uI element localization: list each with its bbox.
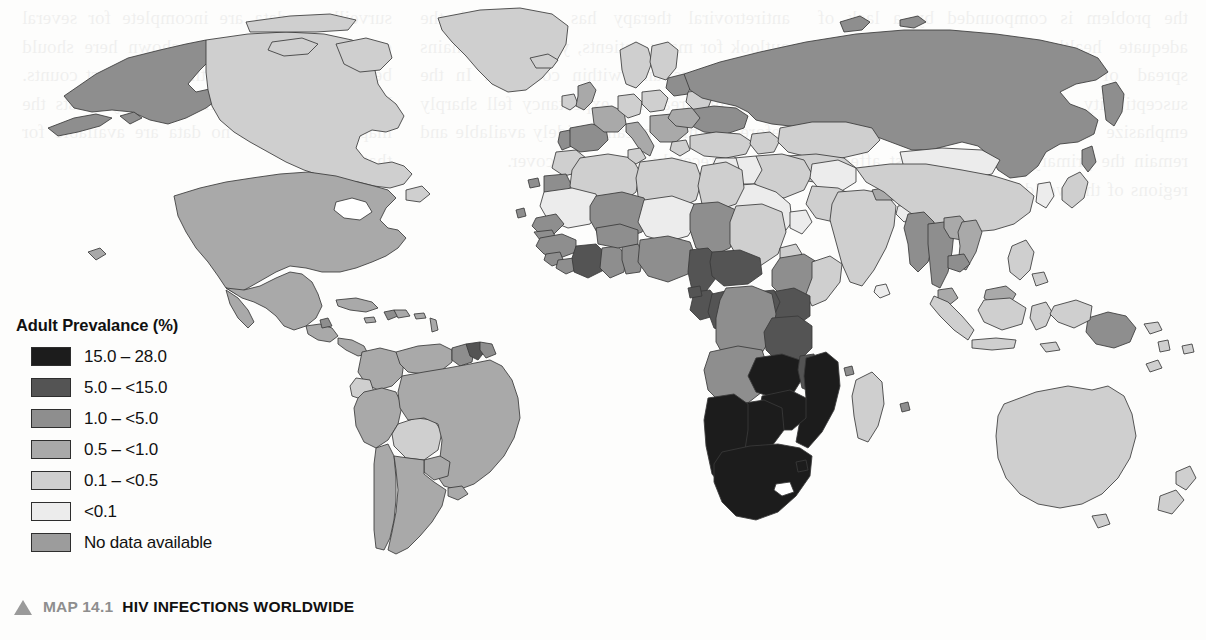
- map-legend: Adult Prevalance (%) 15.0 – 28.0 5.0 – <…: [10, 316, 212, 561]
- legend-title: Adult Prevalance (%): [16, 316, 212, 335]
- legend-label-15-28: 15.0 – 28.0: [84, 347, 167, 367]
- legend-label-01-05: 0.1 – <0.5: [84, 471, 158, 491]
- legend-swatch-15-28: [31, 347, 71, 366]
- region-tasmania: [1092, 514, 1110, 528]
- region-swaziland: [796, 460, 808, 472]
- region-burkina-faso: [596, 224, 638, 248]
- legend-row-05-1: 0.5 – <1.0: [10, 437, 212, 462]
- region-vanuatu: [1158, 340, 1170, 352]
- legend-swatch-05-1: [31, 440, 71, 459]
- region-new-zealand-south: [1158, 490, 1184, 514]
- region-comoros: [844, 366, 854, 376]
- region-west-papua: [1050, 300, 1092, 328]
- legend-swatch-5-15: [31, 378, 71, 397]
- region-uruguay: [448, 486, 468, 500]
- legend-swatch-01-05: [31, 471, 71, 490]
- caption-title: HIV INFECTIONS WORLDWIDE: [122, 598, 354, 616]
- region-finland: [650, 42, 678, 80]
- region-paraguay: [424, 456, 450, 480]
- region-kazakhstan: [778, 122, 880, 158]
- region-philippines: [1008, 240, 1034, 280]
- region-south-africa: [714, 444, 812, 520]
- region-solomon-islands: [1144, 322, 1162, 334]
- legend-label-5-15: 5.0 – <15.0: [84, 378, 167, 398]
- region-hawaii: [88, 248, 106, 260]
- region-cuba: [336, 298, 378, 312]
- region-newfoundland: [406, 186, 430, 202]
- region-novaya-zemlya: [840, 16, 870, 32]
- region-united-kingdom: [576, 82, 596, 110]
- region-philippines-south: [1032, 272, 1048, 286]
- region-papua-new-guinea: [1086, 312, 1136, 348]
- region-arctic-islands-ru: [900, 16, 926, 28]
- region-japan: [1062, 172, 1088, 208]
- region-cape-verde: [516, 208, 526, 218]
- region-nigeria: [638, 236, 696, 282]
- region-sakhalin: [1082, 146, 1096, 172]
- legend-row-lt01: <0.1: [10, 499, 212, 524]
- legend-row-nodata: No data available: [10, 530, 212, 555]
- region-niger: [638, 196, 698, 242]
- region-poland: [642, 90, 668, 112]
- region-ireland: [562, 94, 578, 110]
- legend-row-15-28: 15.0 – 28.0: [10, 344, 212, 369]
- legend-label-05-1: 0.5 – <1.0: [84, 440, 158, 460]
- region-borneo: [978, 298, 1026, 330]
- region-timor: [1040, 342, 1060, 352]
- region-belize: [320, 318, 332, 328]
- region-sulawesi: [1030, 302, 1052, 330]
- legend-swatch-1-5: [31, 409, 71, 428]
- region-canary-islands: [528, 178, 540, 188]
- region-fiji: [1182, 344, 1194, 354]
- region-new-caledonia: [1146, 360, 1162, 372]
- legend-label-lt01: <0.1: [84, 502, 117, 522]
- legend-swatch-lt01: [31, 502, 71, 521]
- region-oman: [790, 210, 812, 234]
- region-puerto-rico: [414, 313, 426, 319]
- legend-swatch-nodata: [31, 533, 71, 552]
- region-koreas: [1036, 182, 1054, 208]
- region-norway-sweden: [620, 42, 652, 88]
- region-equatorial-guinea: [688, 286, 702, 298]
- region-kamchatka: [1102, 82, 1124, 126]
- region-zambia: [748, 354, 804, 398]
- caption-number: MAP 14.1: [43, 598, 113, 616]
- legend-label-nodata: No data available: [84, 533, 212, 553]
- region-madagascar: [852, 372, 884, 442]
- region-australia: [996, 386, 1136, 508]
- figure-caption: MAP 14.1 HIV INFECTIONS WORLDWIDE: [14, 598, 354, 616]
- region-caucasus: [750, 132, 780, 154]
- legend-row-01-05: 0.1 – <0.5: [10, 468, 212, 493]
- region-greece: [670, 140, 690, 156]
- legend-label-1-5: 1.0 – <5.0: [84, 409, 158, 429]
- region-new-zealand-north: [1176, 466, 1196, 490]
- region-french-guiana: [480, 342, 496, 358]
- region-sri-lanka: [874, 284, 890, 298]
- region-turkey: [690, 132, 752, 158]
- region-bolivia: [392, 418, 442, 460]
- region-aleutians: [48, 114, 112, 136]
- region-russia: [684, 30, 1108, 178]
- triangle-up-icon: [14, 600, 32, 615]
- region-central-african-republic: [710, 250, 762, 286]
- region-jamaica: [364, 317, 376, 323]
- region-canada-arctic-islands: [246, 14, 356, 32]
- region-java: [972, 338, 1016, 350]
- region-lesser-antilles: [430, 318, 438, 332]
- legend-row-1-5: 1.0 – <5.0: [10, 406, 212, 431]
- region-greenland: [438, 8, 568, 92]
- region-mauritius-reunion: [900, 402, 910, 412]
- region-alaska: [64, 40, 222, 124]
- legend-row-5-15: 5.0 – <15.0: [10, 375, 212, 400]
